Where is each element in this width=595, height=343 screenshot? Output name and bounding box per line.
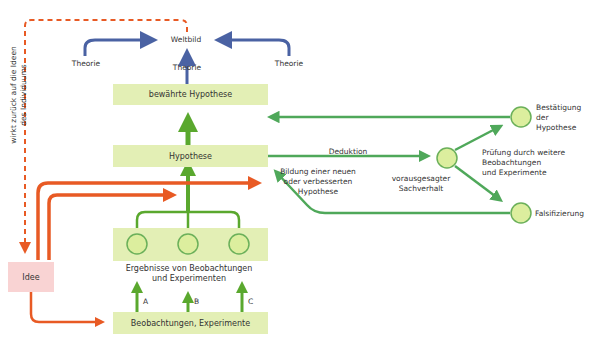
results-label: Ergebnisse von Beobachtungen und Experim… <box>126 264 253 284</box>
arrow-label-b: B <box>194 297 199 307</box>
testing-line2: Beobachtungen <box>482 158 565 168</box>
theory-arrows <box>85 40 289 84</box>
results-label-line2: und Experimenten <box>126 274 253 284</box>
hypothesis-box: Hypothese <box>113 145 268 167</box>
confirmation-circle <box>511 107 531 127</box>
confirmation-line1: Bestätigung <box>536 103 581 113</box>
testing-line3: und Experimente <box>482 168 565 178</box>
deduction-label: Deduktion <box>329 147 368 157</box>
confirmation-line2: der <box>536 113 581 123</box>
result-circles <box>113 228 268 261</box>
feedback-label-line2: des Individuums <box>19 35 29 155</box>
feedback-label: wirkt zurück auf die Ideen des Individuu… <box>9 35 29 155</box>
confirmation-label: Bestätigung der Hypothese <box>536 103 581 133</box>
predicted-fact-label: vorausgesagter Sachverhalt <box>392 174 451 194</box>
hypothesis-up-arrows <box>137 122 239 228</box>
new-hypothesis-label: Bildung einer neuen oder verbesserten Hy… <box>280 167 356 197</box>
falsification-circle <box>511 203 531 223</box>
observation-arrows <box>137 287 242 312</box>
observations-box: Beobachtungen, Experimente <box>113 312 268 334</box>
arrow-label-c: C <box>248 297 253 307</box>
theorie-left-label: Theorie <box>72 59 100 69</box>
idea-box: Idee <box>8 262 54 292</box>
predicted-fact-circle <box>437 148 457 168</box>
proven-hypothesis-box: bewährte Hypothese <box>113 84 268 105</box>
results-label-line1: Ergebnisse von Beobachtungen <box>126 264 253 274</box>
theorie-center-label: Theorie <box>173 63 201 73</box>
predicted-fact-line1: vorausgesagter <box>392 174 451 184</box>
new-hypothesis-line3: Hypothese <box>280 187 356 197</box>
arrow-label-a: A <box>143 297 148 307</box>
predicted-fact-line2: Sachverhalt <box>392 184 451 194</box>
falsification-label: Falsifizierung <box>535 209 584 219</box>
new-hypothesis-line2: oder verbesserten <box>280 177 356 187</box>
deduction-paths <box>268 117 510 213</box>
theorie-right-label: Theorie <box>275 59 303 69</box>
feedback-label-line1: wirkt zurück auf die Ideen <box>9 35 19 155</box>
testing-label: Prüfung durch weitere Beobachtungen und … <box>482 148 565 178</box>
new-hypothesis-line1: Bildung einer neuen <box>280 167 356 177</box>
weltbild-label: Weltbild <box>171 35 201 45</box>
confirmation-line3: Hypothese <box>536 123 581 133</box>
testing-line1: Prüfung durch weitere <box>482 148 565 158</box>
